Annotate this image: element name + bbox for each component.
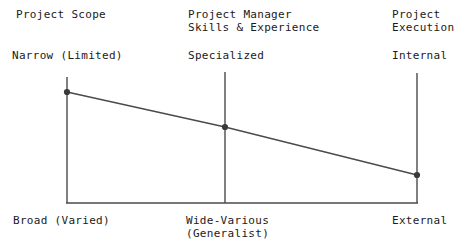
diagram-canvas: Project Scope Project Manager Skills & E… [0, 0, 471, 252]
data-point-marker-project-execution [414, 172, 420, 178]
data-point-marker-project-manager [222, 124, 228, 130]
axes-group [66, 72, 418, 203]
trend-line [67, 92, 417, 175]
diagram-vector-layer [0, 0, 471, 252]
trend-line-group [64, 89, 420, 178]
data-point-marker-project-scope [64, 89, 70, 95]
